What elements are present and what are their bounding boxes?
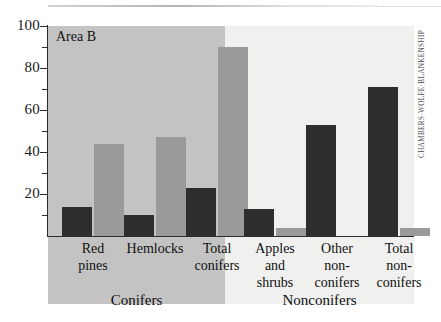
y-tick-label-100: 100 — [2, 18, 40, 33]
bar-gray-total-conifers — [218, 47, 248, 236]
y-tick-major-40 — [40, 152, 48, 153]
x-category-label-line: Total — [354, 240, 441, 257]
x-category-label-line: pines — [48, 257, 138, 274]
group-label-nonconifers: Nonconifers — [225, 292, 414, 309]
y-tick-label-40: 40 — [2, 144, 40, 159]
y-tick-label-60: 60 — [2, 102, 40, 117]
x-category-label-line: non- — [354, 257, 441, 274]
bar-gray-hemlocks — [156, 137, 186, 236]
bar-dark-other-non-conifers — [306, 125, 336, 236]
y-axis-ticks: 10080604020 — [0, 0, 40, 322]
bar-dark-red-pines — [62, 207, 92, 236]
bar-dark-apples-and-shrubs — [244, 209, 274, 236]
image-credit: CHAMBERS·WOLFE·BLANKENSHIP — [418, 30, 426, 158]
group-label-conifers: Conifers — [48, 292, 225, 309]
x-axis-line — [47, 236, 414, 237]
x-axis-category-labels: RedpinesHemlocksTotalconifersApplesandsh… — [48, 240, 414, 300]
bar-gray-total-non-conifers — [400, 228, 430, 236]
y-tick-label-20: 20 — [2, 186, 40, 201]
bar-gray-red-pines — [94, 144, 124, 236]
y-tick-label-80: 80 — [2, 60, 40, 75]
x-category-label-total-non-conifers: Totalnon-conifers — [354, 240, 441, 291]
y-tick-major-100 — [40, 26, 48, 27]
figure-top-rule-secondary — [378, 6, 441, 7]
figure-top-rule — [48, 5, 378, 7]
bar-dark-hemlocks — [124, 215, 154, 236]
x-category-label-line: conifers — [354, 274, 441, 291]
y-tick-major-80 — [40, 68, 48, 69]
bar-group-container — [48, 26, 414, 236]
y-tick-major-20 — [40, 194, 48, 195]
y-tick-major-60 — [40, 110, 48, 111]
bar-gray-apples-and-shrubs — [276, 228, 306, 236]
bar-dark-total-non-conifers — [368, 87, 398, 236]
bar-dark-total-conifers — [186, 188, 216, 236]
